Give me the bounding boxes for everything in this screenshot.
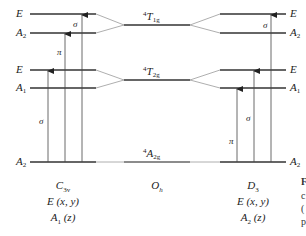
c3v-sigma-low-label: σ [39, 117, 43, 126]
d3-group-label: D3 [220, 180, 286, 194]
d3-sigma-high-label: σ [263, 21, 267, 30]
c3v-a2-ground-label: A2 [16, 156, 26, 169]
caption-fragment: c [301, 191, 305, 201]
oh-group-label: Oh [124, 180, 190, 194]
c3v-pi-label: π [57, 48, 62, 57]
c3v-a1-label: A1 [16, 82, 26, 95]
caption-fragment: p [301, 217, 306, 227]
oh-t2g-label: 4T2g [143, 66, 160, 79]
d3-e-lower-label: E [290, 64, 297, 75]
correlation-lines [96, 14, 220, 162]
d3-a2-irrep: A2 (z) [220, 212, 286, 226]
d3-pi-label: π [229, 137, 234, 146]
c3v-e-upper-label: E [16, 8, 23, 19]
c3v-e-lower-label: E [16, 64, 23, 75]
c3v-group-label: C3v [30, 180, 96, 194]
d3-a1-label: A1 [290, 82, 300, 95]
d3-e-upper-label: E [290, 8, 297, 19]
c3v-e-irrep: E (x, y) [30, 196, 96, 207]
c3v-sigma-high-label: σ [73, 20, 77, 29]
oh-a2g-label: 4A2g [143, 148, 160, 161]
c3v-a2-upper-label: A2 [16, 27, 26, 40]
c3v-levels [30, 14, 96, 162]
d3-a2-upper-label: A2 [290, 27, 300, 40]
d3-a2-ground-label: A2 [290, 156, 300, 169]
d3-sigma-mid-label: σ [246, 114, 250, 123]
d3-e-irrep: E (x, y) [220, 196, 286, 207]
caption-fragment: ( [301, 204, 304, 214]
c3v-a1-irrep: A1 (z) [30, 212, 96, 226]
oh-t1g-label: 4T1g [143, 11, 160, 24]
caption-fragment: F [301, 177, 306, 187]
oh-levels [124, 25, 190, 162]
